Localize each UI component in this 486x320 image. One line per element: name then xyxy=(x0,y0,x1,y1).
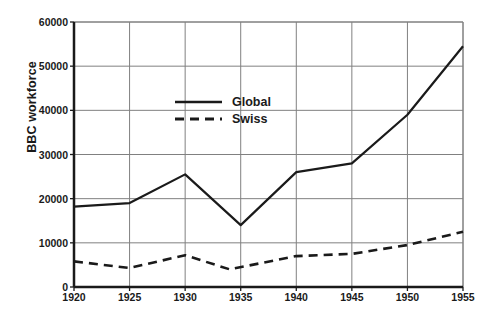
legend-label-swiss: Swiss xyxy=(232,112,267,126)
plot-area xyxy=(0,0,486,320)
series-line-swiss xyxy=(74,232,463,270)
legend-label-global: Global xyxy=(232,95,271,109)
chart-container: BBC workforce 01000020000300004000050000… xyxy=(0,0,486,320)
